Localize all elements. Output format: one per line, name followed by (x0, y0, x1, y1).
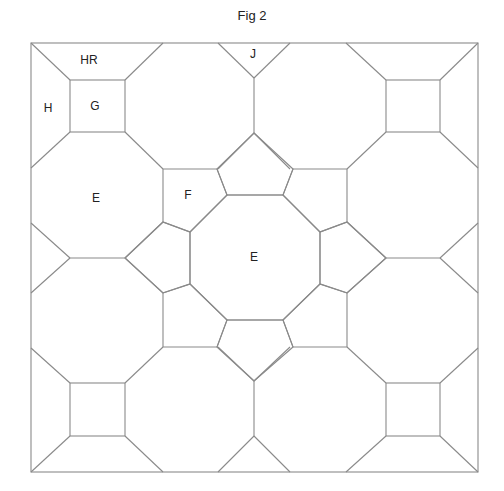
label-e-center: E (250, 250, 258, 264)
label-g: G (90, 99, 99, 113)
corner-square-br (386, 383, 440, 436)
corner-square-tr (386, 80, 440, 132)
label-h: H (44, 101, 53, 115)
corner-square-bl (70, 383, 125, 436)
quilt-block-diagram (0, 0, 504, 491)
label-f: F (184, 188, 191, 202)
label-e-left: E (92, 191, 100, 205)
label-hr: HR (80, 53, 97, 67)
label-j: J (250, 47, 256, 61)
